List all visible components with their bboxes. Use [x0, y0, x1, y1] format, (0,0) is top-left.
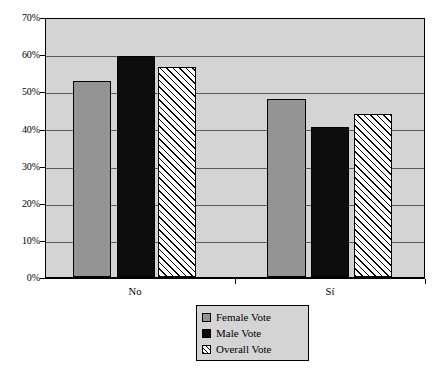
y-tick-70 [40, 18, 45, 19]
plot-area [45, 18, 425, 278]
y-tick-50 [40, 92, 45, 93]
legend-label-overall-vote: Overall Vote [216, 343, 272, 355]
x-tick-end [425, 279, 426, 284]
chart-legend: Female Vote Male Vote Overall Vote [196, 305, 309, 361]
y-axis-label-10: 10% [2, 236, 40, 246]
x-axis-label-no: No [110, 286, 160, 298]
bar-si-male-vote [311, 127, 349, 277]
y-tick-40 [40, 130, 45, 131]
y-axis-label-20: 20% [2, 199, 40, 209]
y-axis-label-60: 60% [2, 50, 40, 60]
gridline-60 [46, 56, 424, 57]
legend-item-female-vote: Female Vote [202, 309, 303, 325]
overall-swatch-icon [202, 345, 211, 354]
bar-chart: 70% 60% 50% 40% 30% 20% 10% 0% No Sí Fem… [0, 0, 443, 369]
y-axis-line [45, 18, 46, 279]
male-swatch-icon [202, 329, 211, 338]
bar-no-male-vote [117, 56, 155, 277]
y-tick-30 [40, 167, 45, 168]
y-axis-label-40: 40% [2, 125, 40, 135]
x-tick-divider [235, 279, 236, 284]
x-axis-label-si: Sí [305, 286, 355, 298]
bar-no-overall-vote [158, 67, 196, 277]
y-tick-10 [40, 241, 45, 242]
bar-si-overall-vote [354, 114, 392, 277]
y-axis-label-0: 0% [2, 273, 40, 283]
y-axis-label-30: 30% [2, 162, 40, 172]
y-axis-label-50: 50% [2, 87, 40, 97]
y-tick-60 [40, 55, 45, 56]
legend-label-female-vote: Female Vote [216, 311, 271, 323]
legend-item-male-vote: Male Vote [202, 325, 303, 341]
bar-no-female-vote [73, 81, 111, 277]
y-tick-20 [40, 204, 45, 205]
bar-si-female-vote [267, 99, 306, 277]
legend-item-overall-vote: Overall Vote [202, 341, 303, 357]
y-axis-label-70: 70% [2, 13, 40, 23]
female-swatch-icon [202, 313, 211, 322]
legend-label-male-vote: Male Vote [216, 327, 261, 339]
